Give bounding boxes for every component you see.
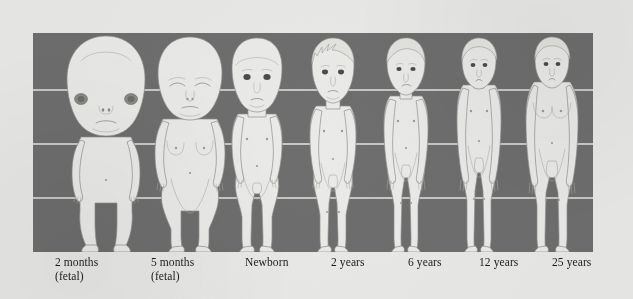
- label-12-years-line1: 12 years: [479, 256, 518, 268]
- figure-6-years: [384, 38, 428, 252]
- nipple-right-newborn: [266, 138, 268, 140]
- figure-2-months-fetal: [67, 36, 145, 252]
- nipple-right-12-years: [486, 110, 488, 112]
- eye-left-12-years: [471, 63, 476, 67]
- figure-panel: [33, 33, 593, 252]
- figure-2-years: [310, 38, 356, 252]
- eye-right-6-years: [410, 67, 415, 71]
- label-5-months-fetal-line1: 5 months: [151, 256, 194, 268]
- label-2-months-fetal-line1: 2 months: [55, 256, 98, 268]
- nipple-left-newborn: [246, 138, 248, 140]
- label-newborn-line1: Newborn: [245, 256, 289, 268]
- nostril-left-5-months: [186, 98, 188, 101]
- label-5-months-fetal: 5 months (fetal): [151, 256, 194, 283]
- label-2-months-fetal-line2: (fetal): [55, 270, 98, 284]
- knee-right-12-years: [483, 198, 485, 200]
- label-6-years: 6 years: [408, 256, 442, 270]
- navel-12-years: [478, 140, 480, 142]
- navel-5-months: [189, 172, 191, 174]
- foot-left-6-years: [392, 246, 405, 252]
- figure-12-years: [457, 38, 501, 252]
- genitals-newborn: [253, 183, 262, 194]
- knee-left-25-years: [545, 199, 547, 201]
- navel-6-years: [405, 147, 407, 149]
- genitals-25-years: [547, 161, 558, 178]
- foot-right-5-months: [196, 246, 212, 252]
- foot-right-2-years: [335, 246, 349, 252]
- eye-right-newborn: [263, 74, 270, 80]
- nipple-left-5-months: [175, 147, 177, 149]
- foot-left-25-years: [535, 246, 549, 252]
- nipple-left-25-years: [542, 110, 545, 113]
- nipple-right-5-months: [203, 147, 205, 149]
- nipple-left-2-years: [323, 130, 325, 132]
- knee-right-6-years: [410, 202, 412, 204]
- nipple-right-2-years: [341, 130, 343, 132]
- eye-left-2-years: [322, 70, 328, 75]
- label-12-years: 12 years: [479, 256, 518, 270]
- head-newborn: [232, 38, 282, 112]
- foot-right-12-years: [481, 246, 494, 252]
- eye-right-25-years: [556, 62, 561, 66]
- figure-5-months-fetal: [155, 37, 225, 252]
- knee-right-25-years: [558, 199, 560, 201]
- body-torso-2-months: [74, 137, 138, 250]
- nipple-left-12-years: [470, 110, 472, 112]
- genitals-12-years: [475, 158, 484, 173]
- label-newborn: Newborn: [245, 256, 289, 270]
- foot-left-12-years: [465, 246, 478, 252]
- head-5-months: [158, 37, 222, 120]
- nipple-right-6-years: [413, 120, 415, 122]
- eye-left-pupil-2-months: [78, 96, 85, 102]
- label-6-years-line1: 6 years: [408, 256, 442, 268]
- eye-left-newborn: [243, 74, 250, 80]
- nipple-right-25-years: [560, 110, 563, 113]
- label-5-months-fetal-line2: (fetal): [151, 270, 194, 284]
- nostril-right-2-months: [108, 108, 111, 111]
- label-2-years: 2 years: [331, 256, 365, 270]
- navel-25-years: [551, 142, 553, 144]
- foot-left-2-years: [318, 246, 332, 252]
- growth-proportion-illustration: [33, 33, 593, 252]
- eye-left-6-years: [396, 67, 401, 71]
- eye-right-pupil-2-months: [128, 96, 135, 102]
- figure-page: 2 months (fetal) 5 months (fetal) Newbor…: [0, 0, 633, 299]
- foot-right-2-months: [114, 245, 131, 252]
- knee-right-2-years: [338, 211, 340, 213]
- knee-left-6-years: [400, 202, 402, 204]
- label-25-years: 25 years: [552, 256, 591, 270]
- eye-right-12-years: [483, 63, 488, 67]
- label-25-years-line1: 25 years: [552, 256, 591, 268]
- foot-left-5-months: [169, 246, 185, 252]
- foot-left-2-months: [82, 245, 99, 252]
- navel-2-years: [332, 158, 334, 160]
- foot-right-newborn: [260, 246, 275, 252]
- figure-25-years: [526, 37, 578, 252]
- foot-right-25-years: [556, 246, 570, 252]
- genitals-6-years: [402, 165, 411, 178]
- nostril-right-5-months: [191, 98, 193, 101]
- foot-left-newborn: [240, 246, 255, 252]
- nipple-left-6-years: [397, 120, 399, 122]
- foot-right-6-years: [408, 246, 421, 252]
- navel-newborn: [256, 165, 258, 167]
- nostril-left-2-months: [102, 108, 105, 111]
- genitals-2-years: [329, 175, 338, 188]
- navel-2-months: [105, 179, 107, 181]
- knee-left-2-years: [326, 211, 328, 213]
- knee-left-12-years: [473, 198, 475, 200]
- label-2-years-line1: 2 years: [331, 256, 365, 268]
- eye-right-2-years: [338, 70, 344, 75]
- stage-labels: 2 months (fetal) 5 months (fetal) Newbor…: [33, 256, 593, 296]
- eye-left-25-years: [544, 62, 549, 66]
- figure-newborn: [232, 38, 282, 252]
- label-2-months-fetal: 2 months (fetal): [55, 256, 98, 283]
